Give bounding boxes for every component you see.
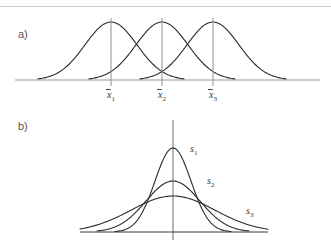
panel-a-label: a) xyxy=(18,28,28,40)
mean-label-3: x3 xyxy=(208,89,217,103)
mean-label-3-group: x3 xyxy=(208,89,217,103)
mean-label-2-group: x2 xyxy=(157,89,166,103)
sd-label-3: s3 xyxy=(246,205,254,219)
mean-label-2: x2 xyxy=(157,89,166,103)
figure-svg: a) x1 x2 x3 b) xyxy=(0,0,331,250)
sd-label-1: s1 xyxy=(190,143,198,157)
figure-root: a) x1 x2 x3 b) xyxy=(0,0,331,250)
sd-label-2: s2 xyxy=(207,175,215,189)
panel-b-label: b) xyxy=(18,120,28,132)
mean-label-1: x1 xyxy=(106,89,115,103)
curve-sd-3 xyxy=(80,196,268,229)
panel-a: a) x1 x2 x3 xyxy=(15,18,320,103)
panel-b: b) s1 s2 s3 xyxy=(18,120,268,240)
mean-label-1-group: x1 xyxy=(106,89,115,103)
